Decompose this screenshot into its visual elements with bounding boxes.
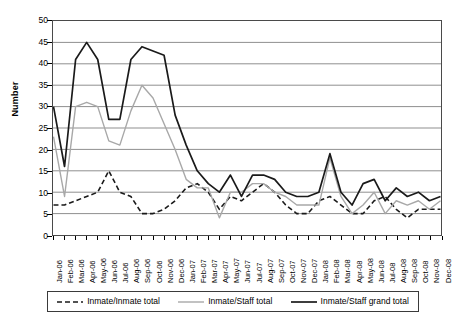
x-tick-mark <box>341 236 342 240</box>
x-tick-mark <box>75 236 76 240</box>
y-axis-tick-labels: 05101520253035404550 <box>24 20 48 236</box>
legend-label: Inmate/Staff total <box>208 297 272 306</box>
x-tick-mark <box>241 236 242 240</box>
x-tick-label: Aug-07 <box>267 259 275 283</box>
x-tick-label: Nov-07 <box>300 259 308 283</box>
x-tick-mark <box>442 236 443 240</box>
x-tick-mark <box>319 236 320 240</box>
legend-item: Inmate/Inmate total <box>57 297 160 306</box>
x-tick-label: Jan-08 <box>322 260 330 283</box>
x-tick-mark <box>275 236 276 240</box>
x-tick-label: May-07 <box>233 258 241 283</box>
x-tick-label: Apr-08 <box>356 260 364 283</box>
x-tick-label: Oct-06 <box>156 260 164 283</box>
y-tick-label: 20 <box>26 146 48 155</box>
x-tick-label: Sep-06 <box>144 259 152 283</box>
y-axis-label: Number <box>10 64 20 134</box>
chart-legend: Inmate/Inmate totalInmate/Staff totalInm… <box>47 291 419 312</box>
x-tick-mark <box>230 236 231 240</box>
legend-swatch-dashed <box>57 298 83 306</box>
x-tick-mark <box>408 236 409 240</box>
x-tick-label: Dec-07 <box>311 259 319 283</box>
x-tick-label: Aug-08 <box>400 259 408 283</box>
x-tick-mark <box>208 236 209 240</box>
y-tick-label: 10 <box>26 189 48 198</box>
x-tick-mark <box>353 236 354 240</box>
x-tick-mark <box>253 236 254 240</box>
x-axis-tick-labels: Jan-06Feb-06Mar-06Apr-06May-06Jun-06Jul-… <box>52 241 442 285</box>
x-tick-mark <box>175 236 176 240</box>
x-tick-label: Dec-06 <box>178 259 186 283</box>
x-tick-mark <box>397 236 398 240</box>
x-tick-mark <box>64 236 65 240</box>
x-tick-label: Jan-07 <box>189 260 197 283</box>
legend-swatch-solid <box>178 298 204 306</box>
legend-item: Inmate/Staff total <box>178 297 272 306</box>
x-tick-label: Feb-07 <box>200 259 208 283</box>
legend-item: Inmate/Staff grand total <box>291 297 409 306</box>
x-tick-label: Jul-07 <box>256 263 264 283</box>
y-tick-label: 15 <box>26 167 48 176</box>
x-tick-label: Aug-06 <box>133 259 141 283</box>
x-tick-label: Sep-08 <box>411 259 419 283</box>
x-tick-label: May-06 <box>100 258 108 283</box>
x-tick-label: Jun-07 <box>244 260 252 283</box>
x-tick-mark <box>97 236 98 240</box>
x-tick-label: Mar-08 <box>344 259 352 283</box>
x-tick-label: Apr-07 <box>222 260 230 283</box>
x-tick-mark <box>197 236 198 240</box>
x-tick-label: May-08 <box>367 258 375 283</box>
x-tick-label: Jun-08 <box>378 260 386 283</box>
x-tick-mark <box>119 236 120 240</box>
x-tick-mark <box>164 236 165 240</box>
x-tick-mark <box>286 236 287 240</box>
series-line <box>53 42 440 205</box>
x-tick-mark <box>130 236 131 240</box>
x-tick-label: Mar-07 <box>211 259 219 283</box>
x-tick-label: Jan-06 <box>56 260 64 283</box>
x-tick-label: Nov-06 <box>167 259 175 283</box>
chart-figure: Number 05101520253035404550 Jan-06Feb-06… <box>0 0 454 320</box>
x-tick-label: Nov-08 <box>433 259 441 283</box>
y-tick-label: 45 <box>26 38 48 47</box>
x-tick-mark <box>108 236 109 240</box>
x-tick-label: Oct-07 <box>289 260 297 283</box>
x-tick-label: Dec-08 <box>445 259 453 283</box>
x-tick-mark <box>297 236 298 240</box>
x-tick-label: Feb-06 <box>67 259 75 283</box>
x-tick-mark <box>364 236 365 240</box>
x-tick-mark <box>330 236 331 240</box>
y-tick-label: 25 <box>26 124 48 133</box>
data-series-layer <box>53 21 441 235</box>
legend-label: Inmate/Staff grand total <box>321 297 409 306</box>
x-tick-mark <box>386 236 387 240</box>
x-tick-label: Apr-06 <box>89 260 97 283</box>
x-tick-label: Jul-08 <box>389 263 397 283</box>
x-tick-mark <box>53 236 54 240</box>
y-tick-label: 50 <box>26 16 48 25</box>
plot-area <box>52 20 442 236</box>
x-tick-mark <box>153 236 154 240</box>
x-tick-label: Feb-08 <box>333 259 341 283</box>
x-tick-mark <box>219 236 220 240</box>
x-tick-mark <box>308 236 309 240</box>
y-tick-label: 30 <box>26 102 48 111</box>
x-tick-mark <box>264 236 265 240</box>
y-tick-label: 40 <box>26 59 48 68</box>
x-tick-mark <box>430 236 431 240</box>
x-tick-mark <box>86 236 87 240</box>
y-tick-label: 0 <box>26 232 48 241</box>
x-tick-mark <box>419 236 420 240</box>
x-tick-label: Oct-08 <box>422 260 430 283</box>
y-tick-label: 35 <box>26 81 48 90</box>
x-tick-mark <box>375 236 376 240</box>
x-tick-mark <box>141 236 142 240</box>
legend-swatch-solid <box>291 298 317 306</box>
x-tick-label: Sep-07 <box>278 259 286 283</box>
x-tick-label: Mar-06 <box>78 259 86 283</box>
legend-label: Inmate/Inmate total <box>87 297 160 306</box>
x-tick-label: Jul-06 <box>122 263 130 283</box>
x-tick-mark <box>186 236 187 240</box>
y-tick-label: 5 <box>26 210 48 219</box>
x-tick-label: Jun-06 <box>111 260 119 283</box>
